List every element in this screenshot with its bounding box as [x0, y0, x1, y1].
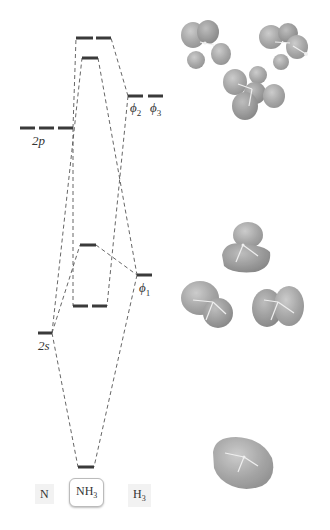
line-a1-nonbonding-to-phi1 [96, 245, 137, 275]
orbital-image-a1-antibonding [223, 66, 285, 120]
column-label-n: N [35, 484, 54, 504]
level-nh3-e-bonding-2 [92, 305, 107, 308]
level-n-2s [38, 332, 52, 335]
orbital-image-e-bonding-a [181, 281, 233, 328]
level-h3-phi3 [148, 95, 163, 98]
mo-diagram [0, 0, 330, 530]
level-h3-phi2 [128, 95, 143, 98]
orbital-image-e-antibonding-a [181, 20, 231, 69]
level-nh3-e-antibonding-2 [96, 37, 111, 40]
level-nh3-a1-nonbonding [80, 244, 96, 247]
line-2s-to-a1-antibonding [52, 58, 82, 333]
column-label-h3: H3 [128, 484, 151, 507]
level-h3-phi1 [137, 274, 152, 277]
orbital-image-a1-nonbonding [222, 222, 270, 272]
level-nh3-a1-antibonding [82, 57, 98, 60]
label-phi2: ϕ2 [130, 101, 141, 118]
column-label-nh3: NH3 [69, 478, 104, 507]
level-nh3-e-bonding-1 [73, 305, 88, 308]
line-2s-to-a1-nonbonding [52, 245, 80, 333]
orbital-image-e-bonding-b [252, 286, 304, 327]
label-2s: 2s [38, 339, 50, 352]
line-phi2-to-e-antibonding [111, 38, 128, 96]
level-n-2p-3 [58, 127, 73, 130]
orbital-image-a1-bonding [213, 437, 273, 489]
level-nh3-a1-bonding [78, 466, 94, 469]
level-nh3-e-antibonding-1 [76, 37, 93, 40]
energy-levels [20, 37, 163, 469]
line-phi1-to-a1-bonding [94, 275, 137, 467]
line-2s-to-a1-bonding [52, 333, 78, 467]
correlation-lines [52, 38, 137, 467]
level-n-2p-2 [39, 127, 54, 130]
label-phi3: ϕ3 [150, 101, 161, 118]
line-a1-antibonding-to-phi1 [98, 58, 137, 275]
level-n-2p-1 [20, 127, 35, 130]
label-2p: 2p [32, 134, 45, 147]
orbital-image-e-antibonding-b [259, 23, 308, 70]
label-phi1: ϕ1 [139, 281, 150, 298]
